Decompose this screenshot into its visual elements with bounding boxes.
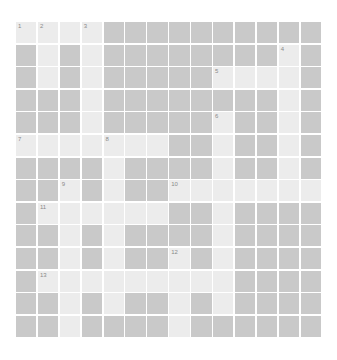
crossword-cell[interactable] bbox=[169, 293, 189, 314]
crossword-block bbox=[257, 22, 277, 43]
crossword-cell[interactable]: 2 bbox=[38, 22, 58, 43]
crossword-cell[interactable] bbox=[213, 248, 233, 269]
crossword-block bbox=[125, 180, 145, 201]
crossword-block bbox=[235, 158, 255, 179]
crossword-block bbox=[16, 67, 36, 88]
crossword-block bbox=[191, 225, 211, 246]
crossword-cell[interactable] bbox=[213, 225, 233, 246]
crossword-block bbox=[235, 135, 255, 156]
crossword-cell[interactable] bbox=[60, 271, 80, 292]
crossword-block bbox=[147, 293, 167, 314]
crossword-block bbox=[235, 225, 255, 246]
crossword-block bbox=[191, 293, 211, 314]
crossword-cell[interactable] bbox=[213, 135, 233, 156]
crossword-cell[interactable]: 5 bbox=[213, 67, 233, 88]
crossword-cell[interactable] bbox=[104, 225, 124, 246]
crossword-cell[interactable] bbox=[82, 90, 102, 111]
crossword-cell[interactable] bbox=[60, 316, 80, 337]
crossword-block bbox=[16, 316, 36, 337]
crossword-block bbox=[125, 45, 145, 66]
crossword-cell[interactable]: 7 bbox=[16, 135, 36, 156]
crossword-block bbox=[257, 90, 277, 111]
crossword-cell[interactable] bbox=[82, 112, 102, 133]
clue-number: 11 bbox=[40, 204, 46, 210]
crossword-cell[interactable]: 10 bbox=[169, 180, 189, 201]
crossword-cell[interactable] bbox=[191, 180, 211, 201]
crossword-cell[interactable] bbox=[104, 271, 124, 292]
crossword-cell[interactable] bbox=[235, 67, 255, 88]
crossword-cell[interactable] bbox=[169, 316, 189, 337]
crossword-cell[interactable] bbox=[60, 225, 80, 246]
crossword-cell[interactable] bbox=[235, 180, 255, 201]
crossword-cell[interactable] bbox=[279, 180, 299, 201]
crossword-block bbox=[257, 158, 277, 179]
crossword-cell[interactable] bbox=[38, 67, 58, 88]
crossword-cell[interactable]: 1 bbox=[16, 22, 36, 43]
crossword-cell[interactable] bbox=[60, 203, 80, 224]
crossword-cell[interactable] bbox=[82, 271, 102, 292]
crossword-cell[interactable] bbox=[147, 203, 167, 224]
crossword-block bbox=[82, 180, 102, 201]
crossword-cell[interactable] bbox=[82, 67, 102, 88]
crossword-block bbox=[169, 67, 189, 88]
crossword-cell[interactable] bbox=[279, 158, 299, 179]
crossword-cell[interactable] bbox=[104, 203, 124, 224]
crossword-cell[interactable] bbox=[169, 271, 189, 292]
crossword-block bbox=[279, 271, 299, 292]
crossword-cell[interactable] bbox=[213, 203, 233, 224]
crossword-cell[interactable]: 3 bbox=[82, 22, 102, 43]
crossword-block bbox=[16, 225, 36, 246]
crossword-cell[interactable]: 4 bbox=[279, 45, 299, 66]
crossword-block bbox=[125, 248, 145, 269]
crossword-cell[interactable] bbox=[125, 271, 145, 292]
crossword-cell[interactable] bbox=[82, 203, 102, 224]
crossword-block bbox=[125, 316, 145, 337]
crossword-cell[interactable] bbox=[60, 293, 80, 314]
crossword-cell[interactable] bbox=[279, 112, 299, 133]
crossword-cell[interactable]: 9 bbox=[60, 180, 80, 201]
crossword-block bbox=[301, 90, 321, 111]
crossword-block bbox=[147, 112, 167, 133]
crossword-block bbox=[301, 22, 321, 43]
crossword-cell[interactable] bbox=[257, 67, 277, 88]
crossword-cell[interactable] bbox=[104, 293, 124, 314]
crossword-cell[interactable]: 6 bbox=[213, 112, 233, 133]
crossword-cell[interactable]: 11 bbox=[38, 203, 58, 224]
crossword-cell[interactable] bbox=[279, 135, 299, 156]
crossword-cell[interactable] bbox=[82, 135, 102, 156]
crossword-cell[interactable] bbox=[257, 180, 277, 201]
crossword-cell[interactable] bbox=[38, 135, 58, 156]
crossword-block bbox=[104, 112, 124, 133]
crossword-cell[interactable] bbox=[104, 248, 124, 269]
crossword-cell[interactable] bbox=[60, 248, 80, 269]
crossword-cell[interactable] bbox=[82, 45, 102, 66]
crossword-cell[interactable] bbox=[301, 180, 321, 201]
crossword-cell[interactable] bbox=[60, 22, 80, 43]
crossword-block bbox=[82, 158, 102, 179]
crossword-block bbox=[257, 45, 277, 66]
crossword-cell[interactable]: 8 bbox=[104, 135, 124, 156]
crossword-block bbox=[257, 248, 277, 269]
crossword-block bbox=[169, 112, 189, 133]
crossword-cell[interactable] bbox=[104, 180, 124, 201]
crossword-cell[interactable] bbox=[147, 271, 167, 292]
crossword-cell[interactable] bbox=[213, 271, 233, 292]
crossword-cell[interactable]: 13 bbox=[38, 271, 58, 292]
crossword-block bbox=[147, 180, 167, 201]
crossword-block bbox=[147, 316, 167, 337]
crossword-block bbox=[213, 22, 233, 43]
crossword-cell[interactable] bbox=[213, 180, 233, 201]
crossword-cell[interactable] bbox=[213, 293, 233, 314]
crossword-cell[interactable] bbox=[147, 135, 167, 156]
crossword-cell[interactable]: 12 bbox=[169, 248, 189, 269]
crossword-cell[interactable] bbox=[213, 158, 233, 179]
crossword-cell[interactable] bbox=[279, 67, 299, 88]
crossword-cell[interactable] bbox=[125, 203, 145, 224]
crossword-cell[interactable] bbox=[60, 135, 80, 156]
crossword-cell[interactable] bbox=[191, 271, 211, 292]
crossword-cell[interactable] bbox=[38, 45, 58, 66]
crossword-cell[interactable] bbox=[104, 158, 124, 179]
crossword-cell[interactable] bbox=[279, 90, 299, 111]
crossword-cell[interactable] bbox=[125, 135, 145, 156]
crossword-block bbox=[104, 45, 124, 66]
